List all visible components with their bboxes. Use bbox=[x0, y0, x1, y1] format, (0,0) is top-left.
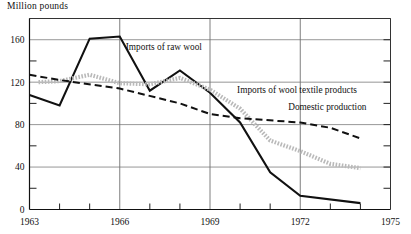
series-line-1 bbox=[30, 37, 361, 204]
data-series-layer bbox=[30, 37, 361, 204]
series-label-1: Imports of raw wool bbox=[126, 42, 203, 52]
x-tick-label: 1975 bbox=[381, 217, 400, 227]
x-axis-tick-labels: 19631966196919721975 bbox=[20, 217, 400, 227]
y-tick-label: 120 bbox=[10, 78, 25, 88]
y-tick-label: 80 bbox=[15, 120, 25, 130]
series-annotations: Imports of raw woolImports of wool texti… bbox=[126, 42, 367, 111]
x-tick-label: 1972 bbox=[291, 217, 310, 227]
x-tick-label: 1963 bbox=[20, 217, 39, 227]
y-tick-label: 40 bbox=[15, 162, 25, 172]
chart-plot-area: 04080120160 19631966196919721975 Imports… bbox=[0, 0, 411, 234]
y-tick-label: 160 bbox=[10, 35, 25, 45]
y-axis-tick-labels: 04080120160 bbox=[10, 35, 25, 215]
series-label-2: Imports of wool textile products bbox=[237, 85, 357, 95]
series-label-3: Domestic production bbox=[288, 102, 367, 112]
x-tick-label: 1966 bbox=[110, 217, 129, 227]
wool-trade-line-chart: Million pounds 04080120160 1963196619691… bbox=[0, 0, 411, 234]
y-tick-label: 0 bbox=[20, 205, 25, 215]
x-tick-label: 1969 bbox=[201, 217, 220, 227]
